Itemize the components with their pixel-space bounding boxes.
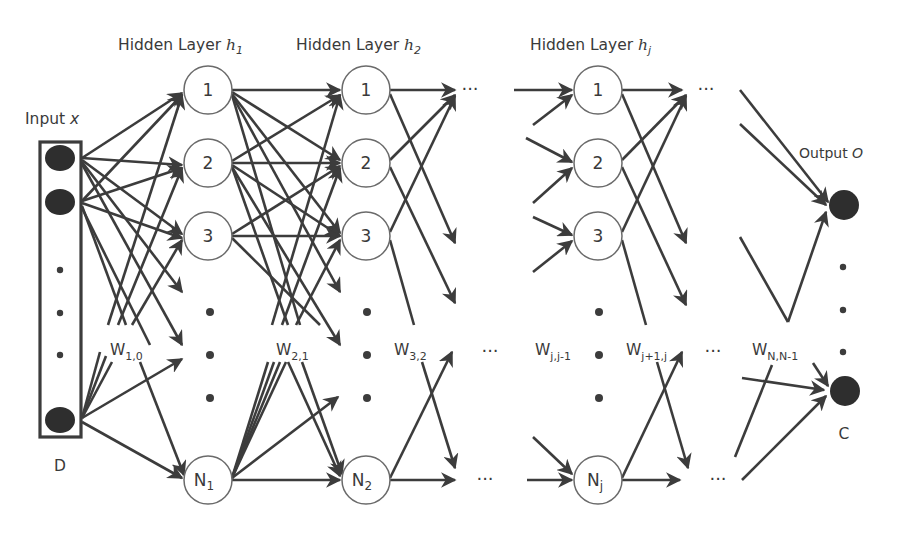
ellipsis-dot bbox=[595, 351, 603, 359]
ellipsis-dot bbox=[840, 264, 846, 270]
neuron-label: 2 bbox=[361, 153, 372, 173]
ellipsis-dot bbox=[840, 349, 846, 355]
input-node bbox=[45, 407, 75, 433]
weight-label: W3,2 bbox=[394, 341, 427, 363]
input-node bbox=[45, 145, 75, 171]
output-node bbox=[830, 376, 860, 406]
input-label: Input x bbox=[25, 110, 80, 128]
labels: Hidden Layer h1 Hidden Layer h2 Hidden L… bbox=[25, 36, 863, 475]
ellipsis: ··· bbox=[704, 340, 721, 361]
ellipsis-dot bbox=[206, 394, 214, 402]
neural-network-diagram: 1 2 3 N1 1 2 3 N2 1 2 3 Nj bbox=[0, 0, 906, 537]
input-dimension-label: D bbox=[54, 457, 66, 475]
output-layer bbox=[829, 190, 860, 406]
edges-h1-to-h2 bbox=[232, 90, 342, 480]
output-dimension-label: C bbox=[839, 425, 850, 443]
hidden-layer-2-title: Hidden Layer h2 bbox=[296, 36, 421, 57]
weight-labels: W1,0 W2,1 W3,2 Wj,j-1 Wj+1,j WN,N-1 bbox=[110, 341, 798, 363]
input-node bbox=[45, 189, 75, 215]
ellipsis-dot bbox=[363, 308, 371, 316]
ellipsis-dot bbox=[206, 308, 214, 316]
weight-label: Wj,j-1 bbox=[535, 341, 571, 363]
ellipsis: ··· bbox=[481, 340, 498, 361]
ellipsis: ··· bbox=[697, 78, 714, 99]
hidden-layer-1: 1 2 3 N1 bbox=[184, 66, 232, 504]
neuron-label: 1 bbox=[203, 80, 214, 100]
ellipsis-dot bbox=[595, 308, 603, 316]
ellipsis: ··· bbox=[476, 468, 493, 489]
hidden-layer-j-title: Hidden Layer hj bbox=[530, 36, 652, 57]
ellipsis-dot bbox=[363, 394, 371, 402]
ellipsis: ··· bbox=[709, 468, 726, 489]
neuron-label: 2 bbox=[203, 153, 214, 173]
weight-label: W1,0 bbox=[110, 341, 143, 363]
ellipsis-dot bbox=[57, 352, 63, 358]
neuron-label: 2 bbox=[593, 153, 604, 173]
ellipsis-dot bbox=[57, 310, 63, 316]
input-layer bbox=[40, 142, 81, 437]
edges-input-to-h1 bbox=[82, 93, 184, 478]
weight-label: W2,1 bbox=[276, 341, 309, 363]
ellipsis-dot bbox=[363, 351, 371, 359]
hidden-layer-2: 1 2 3 N2 bbox=[342, 66, 390, 504]
input-box bbox=[40, 142, 81, 437]
weight-label: WN,N-1 bbox=[752, 341, 798, 363]
ellipsis-dot bbox=[595, 394, 603, 402]
ellipsis: ··· bbox=[461, 78, 478, 99]
output-node bbox=[829, 190, 859, 220]
neuron-label: 1 bbox=[361, 80, 372, 100]
hidden-layer-j: 1 2 3 Nj bbox=[574, 66, 622, 504]
neuron-label: 1 bbox=[593, 80, 604, 100]
output-label: Output O bbox=[799, 145, 863, 161]
edges-hj-out bbox=[622, 90, 688, 480]
neuron-label: 3 bbox=[361, 226, 372, 246]
weight-label: Wj+1,j bbox=[626, 341, 667, 363]
hidden-layer-1-title: Hidden Layer h1 bbox=[118, 36, 243, 57]
edges-into-hj bbox=[514, 90, 572, 480]
edges-h2-out bbox=[390, 90, 455, 480]
ellipsis-dot bbox=[840, 307, 846, 313]
ellipsis-dot bbox=[57, 267, 63, 273]
neuron-label: 3 bbox=[203, 226, 214, 246]
neuron-label: 3 bbox=[593, 226, 604, 246]
ellipsis-dot bbox=[206, 351, 214, 359]
